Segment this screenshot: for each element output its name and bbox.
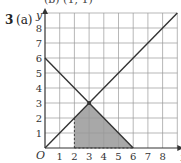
y-tick-label: 8: [36, 23, 42, 34]
x-axis-label: x: [180, 151, 181, 163]
y-tick-label: 4: [36, 83, 42, 94]
graph: 1234567812345678Oxy: [0, 0, 181, 163]
y-tick-label: 3: [36, 98, 42, 109]
y-axis-label: y: [35, 9, 43, 22]
y-tick-label: 6: [36, 53, 42, 64]
x-tick-label: 4: [101, 151, 107, 162]
x-tick-label: 3: [86, 151, 92, 162]
x-tick-label: 1: [57, 151, 63, 162]
x-tick-label: 8: [159, 151, 165, 162]
intersection-point: [87, 101, 91, 105]
origin-label: O: [36, 149, 45, 162]
x-tick-label: 2: [71, 151, 77, 162]
x-tick-label: 6: [130, 151, 136, 162]
x-tick-label: 7: [145, 151, 151, 162]
y-tick-label: 7: [36, 38, 42, 49]
y-tick-label: 5: [36, 68, 42, 79]
y-tick-label: 2: [36, 113, 42, 124]
x-tick-label: 5: [115, 151, 121, 162]
y-tick-label: 1: [36, 128, 42, 139]
y-axis-arrow-icon: [42, 8, 48, 14]
